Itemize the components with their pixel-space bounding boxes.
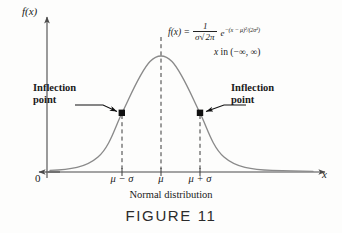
figure-container: f(x) x 0 μ − σ μ μ + σ Inflection point … — [0, 0, 342, 233]
dashed-guides — [122, 37, 200, 169]
domain-in-word: in — [221, 47, 228, 57]
domain-interval: (−∞, ∞) — [230, 47, 260, 57]
tick-label-mu-plus-sigma: μ + σ — [189, 174, 212, 185]
formula-lhs: f(x) = — [168, 27, 190, 37]
formula-numerator: 1 — [200, 21, 211, 31]
tick-label-mu-minus-sigma: μ − σ — [111, 174, 134, 185]
inflection-point-callout-left: Inflection point — [33, 82, 76, 107]
callout-right-line2: point — [231, 94, 274, 106]
callout-right-line1: Inflection — [231, 82, 274, 94]
tick-label-mu: μ — [158, 174, 163, 185]
x-axis-label: x — [322, 169, 327, 180]
callout-left-line1: Inflection — [33, 82, 76, 94]
figure-subtitle: Normal distribution — [129, 190, 212, 201]
inflection-point-callout-right: Inflection point — [231, 82, 274, 107]
formula-denominator: σ√2π — [193, 32, 217, 42]
formula-fraction: 1 σ√2π — [193, 21, 217, 42]
formula-domain: x in (−∞, ∞) — [214, 47, 260, 57]
formula-radicand: 2π — [204, 31, 215, 42]
callout-left-line2: point — [33, 94, 76, 106]
figure-number: FIGURE 11 — [126, 208, 217, 223]
inflection-point-left-marker — [119, 110, 125, 116]
leader-line-left — [75, 105, 117, 112]
formula-exponential: e−(x − μ)²/(2σ²) — [220, 26, 260, 38]
pdf-formula: f(x) = 1 σ√2π e−(x − μ)²/(2σ²) — [168, 21, 260, 42]
origin-label: 0 — [35, 173, 41, 184]
y-axis-label: f(x) — [22, 6, 37, 17]
domain-variable: x — [214, 47, 218, 57]
inflection-point-right-marker — [197, 110, 203, 116]
gaussian-curve — [50, 56, 313, 171]
formula-exp-power: −(x − μ)²/(2σ²) — [224, 26, 260, 33]
